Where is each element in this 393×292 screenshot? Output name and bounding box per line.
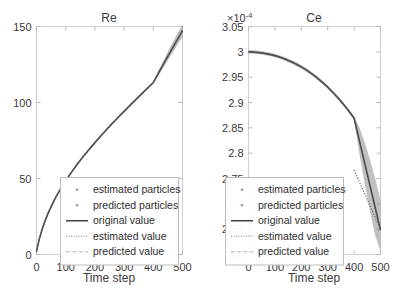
multiplier-exponent: -4 (246, 11, 253, 20)
y-tick-labels-re: 050100150 (13, 21, 31, 261)
legend-marker-dot (76, 204, 79, 207)
panel-title-re: Re (101, 11, 117, 25)
y-axis-multiplier-ce: ×10-4 (227, 11, 252, 24)
x-tick-label: 400 (345, 261, 363, 273)
legend-marker-dot (241, 188, 244, 191)
legend-label: estimated particles (93, 183, 181, 195)
y-tick-label: 0 (25, 249, 31, 261)
x-tick-label: 0 (33, 261, 39, 273)
y-tick-label: 150 (13, 21, 31, 33)
chart-svg-ce: 2.62.652.72.752.82.852.92.9533.05 010020… (196, 0, 393, 292)
legend-label: original value (93, 214, 155, 226)
x-axis-title-ce: Time step (288, 271, 341, 285)
legend-label: predicted particles (93, 199, 178, 211)
chart-panel-re: 050100150 0100200300400500 Re Time step … (0, 0, 196, 292)
legend-label: original value (258, 214, 320, 226)
y-tick-label: 3 (237, 46, 243, 58)
panel-title-ce: Ce (306, 11, 322, 25)
legend-label: predicted particles (258, 199, 343, 211)
legend-label: estimated value (258, 230, 332, 242)
legend-re: estimated particlespredicted particlesor… (61, 178, 181, 266)
y-tick-label: 2.85 (222, 122, 243, 134)
x-tick-label: 500 (371, 261, 389, 273)
legend-label: predicted value (258, 245, 329, 257)
figure-container: 050100150 0100200300400500 Re Time step … (0, 0, 393, 292)
y-tick-label: 100 (13, 97, 31, 109)
y-tick-label: 2.8 (228, 147, 243, 159)
legend-label: estimated particles (258, 183, 346, 195)
multiplier-base: ×10 (227, 12, 246, 24)
chart-panel-ce: 2.62.652.72.752.82.852.92.9533.05 010020… (196, 0, 392, 292)
legend-label: predicted value (93, 245, 164, 257)
x-axis-title-re: Time step (83, 271, 136, 285)
legend-ce: estimated particlespredicted particlesor… (226, 178, 346, 266)
legend-marker-dot (76, 188, 79, 191)
legend-marker-dot (241, 204, 244, 207)
legend-label: estimated value (93, 230, 167, 242)
y-tick-label: 50 (19, 173, 31, 185)
chart-svg-re: 050100150 0100200300400500 Re Time step … (0, 0, 196, 292)
series-estimated-value (249, 52, 355, 118)
y-tick-label: 2.9 (228, 97, 243, 109)
y-tick-label: 2.95 (222, 71, 243, 83)
